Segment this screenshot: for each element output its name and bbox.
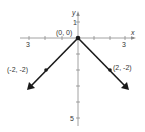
point-right-label: (2, -2) — [113, 64, 132, 71]
origin-point — [76, 36, 81, 41]
y-axis — [76, 11, 80, 126]
left-ray — [31, 38, 78, 86]
y-tick-label-top: 1 — [73, 19, 77, 26]
x-axis-arrow-icon — [131, 36, 136, 39]
y-tick-label-bottom: 5 — [70, 115, 74, 122]
x-axis-label: x — [131, 29, 135, 36]
point-left — [44, 68, 48, 72]
point-right — [108, 68, 112, 72]
point-left-label: (-2, -2) — [7, 66, 28, 73]
right-ray — [78, 38, 125, 86]
y-axis-arrow-icon — [76, 11, 79, 16]
origin-label: (0, 0) — [56, 29, 72, 36]
x-tick-label-left: 3 — [26, 41, 30, 48]
y-axis-label: y — [72, 9, 76, 16]
x-tick-label-right: 3 — [122, 41, 126, 48]
